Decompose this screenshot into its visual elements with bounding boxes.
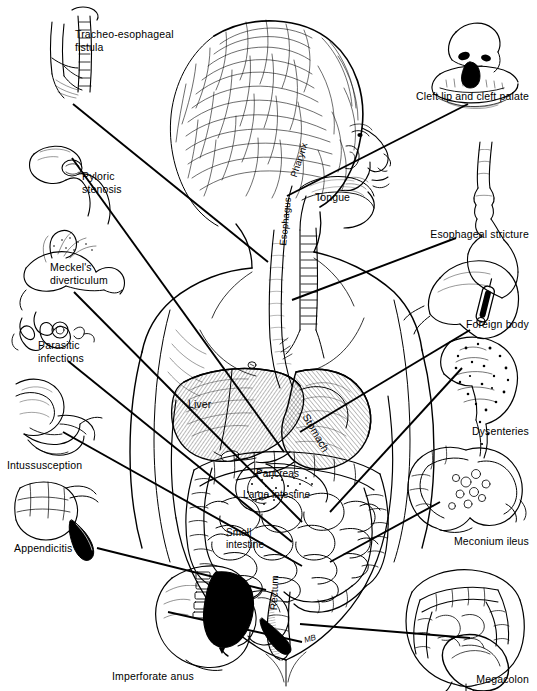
organ-label-large-intestine: Large intestine [243,489,310,500]
label-esophageal-stricture: Esophageal stricture [430,228,529,241]
organ-label-tongue: Tongue [315,192,350,203]
label-imperforate-anus: Imperforate anus [112,670,194,683]
label-dysenteries: Dysenteries [472,425,529,438]
organ-label-small-intestine: Small intestine [226,527,264,551]
leader-cleft-lip-and-cleft-palate [287,104,468,196]
label-foreign-body: Foreign body [466,318,529,331]
label-meckels-diverticulum: Meckel's diverticulum [50,261,108,286]
leader-megacolon [300,624,470,638]
vignette-dysenteries [441,337,518,458]
organ-label-liver: Liver [188,399,211,410]
illustration-figure: Tracheo-esophageal fistula Pyloric steno… [0,0,537,691]
liver [172,369,304,463]
leader-appendicitis [97,548,266,590]
label-pyloric-stenosis: Pyloric stenosis [82,170,122,195]
child-head [170,20,390,228]
label-parasitic-infections: Parasitic infections [38,339,84,364]
label-meconium-ileus: Meconium ileus [454,535,529,548]
label-megacolon: Megacolon [476,673,529,686]
vignette-intussusception [16,379,102,455]
vignette-meconium-ileus [408,446,526,533]
label-intussusception: Intussusception [7,459,82,472]
label-tracheo-esophageal-fistula: Tracheo-esophageal fistula [75,28,174,53]
organ-label-rectum: Rectum [268,575,280,610]
organ-label-pancreas: Pancreas [256,468,299,479]
label-cleft-lip-and-cleft-palate: Cleft lip and cleft palate [416,90,529,103]
label-appendicitis: Appendicitis [14,542,72,555]
